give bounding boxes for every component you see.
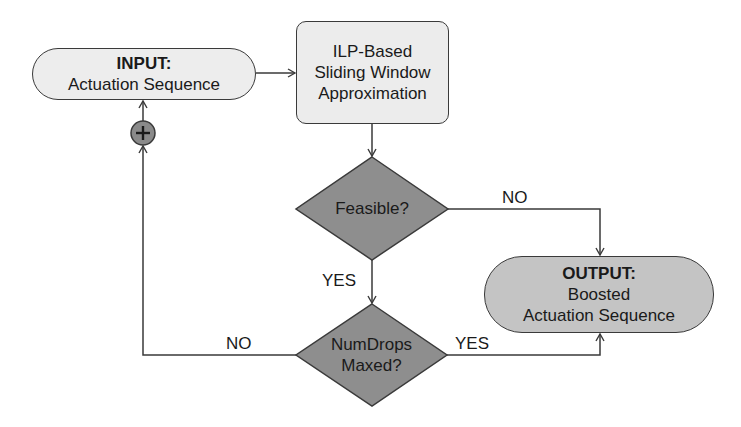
edge-label-feasible-no: NO [502,188,528,208]
feasible-text: Feasible? [335,198,409,219]
process-line-1: ILP-Based [333,41,412,62]
output-line-1: Boosted [568,284,630,305]
edge-label-numdrops-no: NO [226,334,252,354]
input-title: INPUT: [117,53,172,74]
numdrops-line-1: NumDrops [331,334,412,355]
process-node: ILP-Based Sliding Window Approximation [296,21,449,124]
arrow-feasible-no-to-output [448,209,600,255]
plus-icon [131,121,155,145]
input-node: INPUT: Actuation Sequence [32,48,256,100]
output-title: OUTPUT: [562,263,636,284]
edge-label-numdrops-yes: YES [455,334,489,354]
edge-label-feasible-yes: YES [322,271,356,291]
input-text: Actuation Sequence [68,74,220,95]
process-line-3: Approximation [318,83,427,104]
feasible-label: Feasible? [296,157,448,260]
arrow-numdrops-no-loop [143,146,296,355]
numdrops-line-2: Maxed? [341,355,401,376]
output-line-2: Actuation Sequence [523,305,675,326]
output-node: OUTPUT: Boosted Actuation Sequence [484,256,714,333]
numdrops-label: NumDrops Maxed? [296,304,447,406]
process-line-2: Sliding Window [314,62,430,83]
